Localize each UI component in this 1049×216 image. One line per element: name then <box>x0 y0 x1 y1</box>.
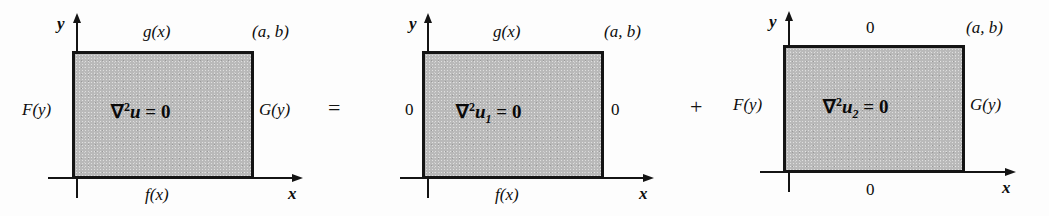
superposition-figure: y x ∇2u = 0 g(x) f(x) F(y) G(y) (a, b) =… <box>0 0 1049 216</box>
laplace-equation: ∇2u2 = 0 <box>823 96 888 120</box>
top-boundary-label: g(x) <box>493 23 520 40</box>
x-axis-arrow-icon <box>292 174 303 182</box>
right-boundary-label: 0 <box>611 101 620 118</box>
equation-subscript: 2 <box>853 107 859 121</box>
y-axis-arrow-icon <box>424 13 432 23</box>
left-boundary-label: F(y) <box>22 101 51 118</box>
y-axis-arrow-icon <box>785 11 793 21</box>
laplace-equation: ∇2u = 0 <box>111 101 170 125</box>
equation-variable: u <box>842 96 853 117</box>
corner-coordinate-label: (a, b) <box>604 23 641 40</box>
laplace-equation: ∇2u1 = 0 <box>456 101 521 125</box>
right-boundary-label: G(y) <box>259 101 290 118</box>
x-axis-arrow-icon <box>643 174 654 182</box>
y-axis-label: y <box>57 15 65 32</box>
nabla-symbol: ∇ <box>111 101 124 122</box>
bottom-boundary-label: f(x) <box>145 186 169 203</box>
equation-rhs: = 0 <box>496 101 521 122</box>
nabla-symbol: ∇ <box>456 101 469 122</box>
y-axis-label: y <box>409 15 417 32</box>
corner-coordinate-label: (a, b) <box>966 19 1003 36</box>
equation-subscript: 1 <box>486 112 492 126</box>
nabla-symbol: ∇ <box>823 96 836 117</box>
left-boundary-label: 0 <box>405 101 414 118</box>
left-boundary-label: F(y) <box>733 96 762 113</box>
x-axis-label: x <box>1002 179 1011 196</box>
top-boundary-label: 0 <box>866 19 875 36</box>
equation-variable: u <box>130 101 141 122</box>
equals-operator: = <box>328 97 340 119</box>
x-axis-label: x <box>288 185 297 202</box>
plus-operator: + <box>690 96 702 118</box>
bottom-boundary-label: 0 <box>866 181 875 198</box>
equation-variable: u <box>475 101 486 122</box>
top-boundary-label: g(x) <box>143 23 170 40</box>
bottom-boundary-label: f(x) <box>495 186 519 203</box>
equation-rhs: = 0 <box>863 96 888 117</box>
y-axis-arrow-icon <box>73 13 81 23</box>
x-axis-label: x <box>639 185 648 202</box>
right-boundary-label: G(y) <box>970 96 1001 113</box>
equation-rhs: = 0 <box>145 101 170 122</box>
x-axis-arrow-icon <box>1005 168 1016 176</box>
corner-coordinate-label: (a, b) <box>252 23 289 40</box>
y-axis-label: y <box>769 13 777 30</box>
